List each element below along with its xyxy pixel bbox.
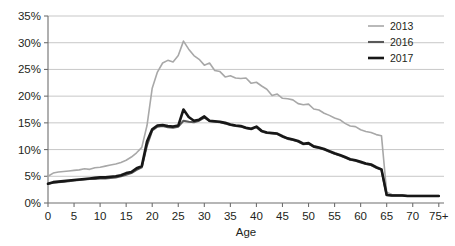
x-axis-tick-label: 50 xyxy=(302,210,315,222)
chart-container: 0%5%10%15%20%25%30%35%051015202530354045… xyxy=(0,0,455,246)
y-axis-tick-label: 30% xyxy=(18,37,41,49)
x-axis-title: Age xyxy=(236,226,256,238)
series-line-2013 xyxy=(48,41,439,195)
x-axis-tick-label: 75+ xyxy=(429,210,449,222)
y-axis-tick-label: 35% xyxy=(18,10,41,22)
y-axis-tick-label: 0% xyxy=(24,197,41,209)
y-axis-tick-label: 5% xyxy=(24,170,41,182)
legend-label-2017: 2017 xyxy=(390,52,414,64)
x-axis-tick-label: 35 xyxy=(224,210,237,222)
y-axis-tick-label: 15% xyxy=(18,117,41,129)
x-axis-tick-label: 40 xyxy=(250,210,263,222)
legend-label-2013: 2013 xyxy=(390,20,414,32)
x-axis-tick-label: 30 xyxy=(198,210,211,222)
x-axis-tick-label: 10 xyxy=(94,210,107,222)
x-axis-tick-label: 45 xyxy=(276,210,289,222)
y-axis-tick-label: 25% xyxy=(18,63,41,75)
x-axis-tick-label: 15 xyxy=(120,210,133,222)
x-axis-tick-label: 70 xyxy=(406,210,419,222)
y-axis-tick-label: 20% xyxy=(18,90,41,102)
x-axis-tick-label: 25 xyxy=(172,210,185,222)
x-axis-tick-label: 0 xyxy=(45,210,51,222)
x-axis-tick-label: 60 xyxy=(354,210,367,222)
x-axis-tick-label: 5 xyxy=(71,210,77,222)
y-axis-tick-label: 10% xyxy=(18,144,41,156)
line-chart: 0%5%10%15%20%25%30%35%051015202530354045… xyxy=(0,0,455,246)
series-line-2016 xyxy=(48,118,439,197)
x-axis-tick-label: 65 xyxy=(380,210,393,222)
x-axis-tick-label: 20 xyxy=(146,210,159,222)
x-ticks: 051015202530354045505560657075+ xyxy=(45,203,449,222)
legend: 201320162017 xyxy=(368,20,414,64)
x-axis-tick-label: 55 xyxy=(328,210,341,222)
legend-label-2016: 2016 xyxy=(390,36,414,48)
